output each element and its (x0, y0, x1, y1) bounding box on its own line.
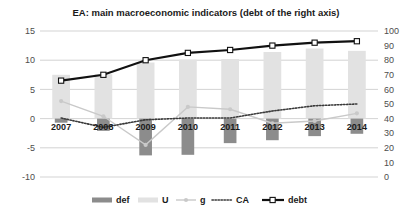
chart-title: EA: main macroeconomic indicators (debt … (72, 7, 339, 18)
unemployment-bar (95, 74, 113, 118)
growth-marker (228, 107, 232, 111)
legend-label: debt (288, 195, 307, 205)
category-label: 2010 (178, 122, 198, 132)
category-label: 2013 (305, 122, 325, 132)
legend-label: U (162, 195, 169, 205)
growth-marker (186, 105, 190, 109)
right-axis-tick-label: 10 (384, 158, 394, 168)
legend-marker (270, 197, 275, 202)
category-label: 2012 (262, 122, 282, 132)
left-axis-tick-label: 5 (30, 85, 35, 95)
right-axis-tick-label: 100 (384, 26, 399, 36)
left-axis-tick-label: -5 (27, 143, 35, 153)
macroeconomic-indicators-chart: EA: main macroeconomic indicators (debt … (0, 0, 412, 216)
chart-container: EA: main macroeconomic indicators (debt … (0, 0, 412, 216)
right-axis-tick-label: 0 (384, 172, 389, 182)
right-axis-tick-label: 50 (384, 99, 394, 109)
unemployment-bar (264, 52, 282, 119)
growth-marker (144, 143, 148, 147)
unemployment-bar (306, 49, 324, 119)
right-axis-tick-label: 60 (384, 85, 394, 95)
debt-marker (101, 72, 106, 77)
right-axis-tick-label: 90 (384, 41, 394, 51)
debt-marker (312, 40, 317, 45)
legend-swatch (138, 198, 158, 203)
right-axis-tick-label: 70 (384, 70, 394, 80)
unemployment-bar (137, 63, 155, 119)
right-axis-tick-label: 30 (384, 128, 394, 138)
category-label: 2007 (51, 122, 71, 132)
legend-label: g (200, 195, 206, 205)
legend-marker (184, 198, 188, 202)
category-label: 2009 (136, 122, 156, 132)
growth-marker (59, 99, 63, 103)
debt-marker (185, 50, 190, 55)
unemployment-bar (179, 60, 197, 119)
left-axis-tick-label: 15 (25, 26, 35, 36)
legend-label: def (116, 195, 131, 205)
growth-marker (101, 114, 105, 118)
legend-swatch (92, 198, 112, 203)
category-label: 2008 (93, 122, 113, 132)
debt-marker (228, 47, 233, 52)
left-axis-tick-label: 10 (25, 55, 35, 65)
left-axis-tick-label: -10 (22, 172, 35, 182)
right-axis-tick-label: 80 (384, 55, 394, 65)
debt-marker (59, 78, 64, 83)
category-label: 2011 (220, 122, 240, 132)
right-axis-tick-label: 40 (384, 114, 394, 124)
debt-marker (354, 39, 359, 44)
unemployment-bar (348, 51, 366, 119)
category-label: 2014 (347, 122, 367, 132)
debt-marker (270, 43, 275, 48)
left-axis-tick-label: 0 (30, 114, 35, 124)
debt-marker (143, 58, 148, 63)
right-axis-tick-label: 20 (384, 143, 394, 153)
legend-label: CA (236, 195, 249, 205)
growth-marker (355, 111, 359, 115)
